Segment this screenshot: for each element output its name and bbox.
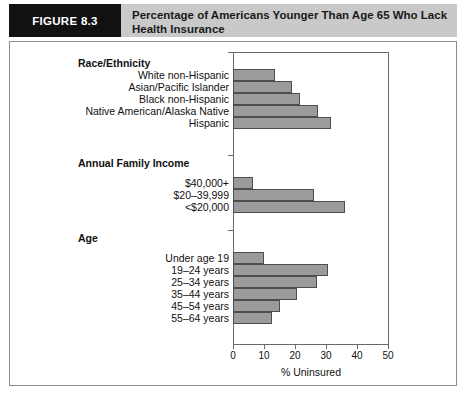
x-axis-tick-label: 10 bbox=[249, 350, 279, 361]
category-label-text: <$20,000 bbox=[185, 201, 229, 213]
category-label-text: $20–39,999 bbox=[174, 189, 229, 201]
x-axis-tick bbox=[295, 344, 296, 349]
plot-right-border bbox=[388, 52, 389, 344]
group-separator-tick bbox=[228, 52, 234, 53]
category-label-text: 45–54 years bbox=[171, 300, 229, 312]
category-label: Native American/Alaska Native bbox=[49, 105, 229, 117]
category-label: $40,000+ bbox=[49, 177, 229, 189]
bar bbox=[233, 276, 317, 288]
bar bbox=[233, 117, 331, 129]
bar bbox=[233, 177, 253, 189]
category-label: 25–34 years bbox=[49, 276, 229, 288]
bar bbox=[233, 201, 345, 213]
category-label-text: 35–44 years bbox=[171, 288, 229, 300]
category-label-text: Native American/Alaska Native bbox=[85, 105, 229, 117]
bar bbox=[233, 81, 292, 93]
category-label-text: Under age 19 bbox=[165, 252, 229, 264]
bar bbox=[233, 189, 314, 201]
bar bbox=[233, 312, 272, 324]
plot-top-border bbox=[233, 52, 389, 53]
group-separator-tick bbox=[228, 155, 234, 156]
x-axis-tick bbox=[264, 344, 265, 349]
category-label: <$20,000 bbox=[49, 201, 229, 213]
group-heading: Race/Ethnicity bbox=[78, 57, 150, 69]
x-axis-tick-label: 0 bbox=[218, 350, 248, 361]
category-label-text: Hispanic bbox=[189, 117, 229, 129]
category-label: Asian/Pacific Islander bbox=[49, 81, 229, 93]
x-axis-tick-label: 50 bbox=[373, 350, 403, 361]
category-label: Under age 19 bbox=[49, 252, 229, 264]
category-label-text: Asian/Pacific Islander bbox=[129, 81, 229, 93]
x-axis-tick-label: 30 bbox=[311, 350, 341, 361]
x-axis-tick bbox=[326, 344, 327, 349]
category-label: 55–64 years bbox=[49, 312, 229, 324]
category-label: Hispanic bbox=[49, 117, 229, 129]
bar bbox=[233, 264, 328, 276]
bar bbox=[233, 300, 280, 312]
group-heading: Annual Family Income bbox=[78, 157, 189, 169]
category-label-text: Black non-Hispanic bbox=[139, 93, 229, 105]
category-label-text: 55–64 years bbox=[171, 312, 229, 324]
category-label-text: $40,000+ bbox=[185, 177, 229, 189]
x-axis-tick bbox=[357, 344, 358, 349]
bar bbox=[233, 105, 318, 117]
bar bbox=[233, 252, 264, 264]
group-heading: Age bbox=[78, 232, 98, 244]
x-axis-tick bbox=[388, 344, 389, 349]
category-label: Black non-Hispanic bbox=[49, 93, 229, 105]
bar bbox=[233, 288, 297, 300]
category-label-text: 19–24 years bbox=[171, 264, 229, 276]
category-label-text: White non-Hispanic bbox=[138, 69, 229, 81]
category-label: $20–39,999 bbox=[49, 189, 229, 201]
x-axis-tick bbox=[233, 344, 234, 349]
bar-chart: % Uninsured 01020304050Race/EthnicityWhi… bbox=[0, 0, 466, 395]
bar bbox=[233, 69, 275, 81]
bar bbox=[233, 93, 300, 105]
category-label: 45–54 years bbox=[49, 300, 229, 312]
x-axis-line bbox=[233, 344, 389, 345]
category-label: White non-Hispanic bbox=[49, 69, 229, 81]
category-label: 35–44 years bbox=[49, 288, 229, 300]
x-axis-tick-label: 20 bbox=[280, 350, 310, 361]
category-label: 19–24 years bbox=[49, 264, 229, 276]
x-axis-title: % Uninsured bbox=[233, 366, 389, 378]
x-axis-tick-label: 40 bbox=[342, 350, 372, 361]
category-label-text: 25–34 years bbox=[171, 276, 229, 288]
group-separator-tick bbox=[228, 230, 234, 231]
